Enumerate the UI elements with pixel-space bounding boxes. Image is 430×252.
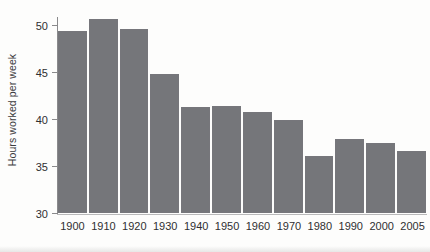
y-axis-tick-label: 30 [36, 208, 48, 220]
bar-column [397, 8, 426, 213]
y-axis-tick: 35 [52, 166, 57, 167]
bar-column [150, 8, 179, 213]
x-axis-tick-label: 2005 [398, 220, 427, 232]
bar-chart-figure: Hours worked per week 3035404550 1900191… [0, 0, 430, 252]
bar-1970 [274, 120, 303, 213]
bar-1960 [243, 112, 272, 213]
x-axis-line [57, 214, 427, 215]
y-axis-tick-label: 50 [36, 20, 48, 32]
y-axis-tick-label: 40 [36, 114, 48, 126]
bar-1900 [58, 31, 87, 213]
y-axis-title: Hours worked per week [0, 0, 24, 220]
x-axis-tick-label: 1960 [244, 220, 273, 232]
bar-series [58, 8, 426, 213]
bar-column [305, 8, 334, 213]
x-axis-tick-label: 1980 [305, 220, 334, 232]
x-axis-tick-label: 1990 [336, 220, 365, 232]
x-axis-tick-label: 1920 [120, 220, 149, 232]
bar-column [335, 8, 364, 213]
bar-2000 [366, 143, 395, 213]
x-axis-tick-label: 1950 [213, 220, 242, 232]
bar-1940 [181, 107, 210, 213]
y-axis-tick: 50 [52, 25, 57, 26]
bar-1950 [212, 106, 241, 213]
bar-column [212, 8, 241, 213]
bar-2005 [397, 151, 426, 213]
y-axis-tick-label: 45 [36, 67, 48, 79]
x-axis-tick-label: 1970 [274, 220, 303, 232]
bar-1990 [335, 139, 364, 213]
scan-edge-shadow [0, 246, 430, 252]
x-axis-tick-label: 2000 [367, 220, 396, 232]
x-axis-tick-labels: 1900191019201930194019501960197019801990… [58, 220, 427, 232]
y-axis-tick-label: 35 [36, 161, 48, 173]
plot-area: 3035404550 [57, 8, 426, 214]
bar-column [58, 8, 87, 213]
bar-1910 [89, 19, 118, 213]
bar-column [181, 8, 210, 213]
bar-column [274, 8, 303, 213]
x-axis-tick-label: 1940 [182, 220, 211, 232]
y-axis-tick: 45 [52, 72, 57, 73]
bar-1930 [150, 74, 179, 213]
x-axis-tick-label: 1930 [151, 220, 180, 232]
x-axis-tick-label: 1900 [58, 220, 87, 232]
bar-column [366, 8, 395, 213]
x-axis-tick-label: 1910 [89, 220, 118, 232]
y-axis-tick: 40 [52, 119, 57, 120]
bar-1920 [120, 29, 149, 213]
bar-column [89, 8, 118, 213]
bar-column [120, 8, 149, 213]
y-axis-title-text: Hours worked per week [6, 54, 18, 166]
bar-column [243, 8, 272, 213]
bar-1980 [305, 156, 334, 213]
